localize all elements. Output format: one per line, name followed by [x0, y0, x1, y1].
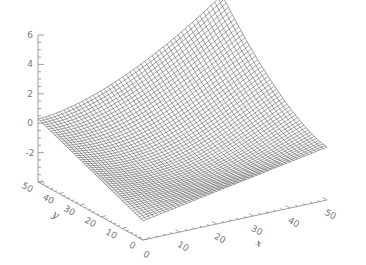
z-tick-label: 4 — [27, 59, 33, 69]
x-axis-tick — [148, 237, 150, 238]
x-axis-tick — [192, 228, 194, 229]
mesh-line — [40, 0, 224, 121]
y-axis-tick — [114, 223, 116, 224]
x-axis-tick — [175, 230, 179, 232]
y-axis-tick — [130, 233, 132, 234]
y-axis-tick — [97, 214, 99, 215]
y-axis-tick — [143, 239, 148, 240]
y-axis-tick — [109, 221, 111, 222]
x-axis-tick — [200, 226, 202, 227]
mesh-line — [75, 105, 180, 206]
mesh-line — [38, 0, 222, 119]
mesh-line — [159, 50, 264, 172]
surface-mesh — [38, 0, 327, 221]
x-axis-tick — [273, 210, 275, 211]
x-axis-tick — [310, 202, 312, 203]
y-axis-tick — [88, 209, 90, 210]
x-axis-tick — [229, 220, 231, 221]
x-axis-tick — [156, 236, 158, 237]
y-tick-label: 30 — [62, 203, 77, 217]
mesh-line — [56, 113, 161, 214]
x-axis-tick — [266, 212, 268, 213]
mesh-line — [218, 0, 323, 149]
x-axis-tick — [207, 224, 209, 225]
x-axis-tick — [303, 204, 305, 205]
mesh-line — [44, 7, 228, 125]
x-tick-label: 50 — [323, 207, 338, 221]
y-tick-label: 10 — [104, 227, 119, 241]
y-axis-tick — [105, 219, 107, 220]
x-axis-tick — [323, 198, 327, 200]
z-tick-label: 0 — [27, 118, 33, 128]
x-axis-tick — [222, 221, 224, 222]
x-tick-label: 30 — [249, 223, 264, 237]
x-axis-tick — [317, 200, 319, 201]
mesh-line — [156, 53, 261, 174]
y-axis-tick — [122, 227, 127, 228]
z-tick-label: 2 — [27, 89, 33, 99]
x-tick-label: 20 — [213, 231, 228, 245]
mesh-line — [42, 118, 147, 219]
mesh-line — [174, 38, 279, 166]
y-axis-tick — [80, 204, 85, 205]
y-tick-label: 40 — [41, 192, 56, 206]
x-axis-tick — [281, 208, 283, 209]
z-tick-label: -2 — [26, 148, 35, 158]
y-axis-title-glyph: y — [50, 208, 61, 221]
x-axis-tick — [259, 213, 261, 214]
mesh-line — [82, 101, 187, 203]
axes — [38, 35, 327, 240]
y-axis-tick — [76, 202, 78, 203]
x-axis-tick — [249, 214, 253, 216]
x-axis-tick — [244, 216, 246, 217]
x-axis-tick — [295, 205, 297, 206]
y-axis-tick — [84, 207, 86, 208]
y-axis-tick — [42, 184, 44, 185]
mesh-line — [222, 0, 327, 147]
y-axis-tick — [51, 188, 53, 189]
y-axis-tick — [93, 212, 95, 213]
y-axis-tick — [72, 200, 74, 201]
x-axis-tick — [185, 229, 187, 230]
mesh-line — [91, 86, 275, 170]
mesh-line — [93, 89, 277, 172]
y-axis-tick — [67, 198, 69, 199]
mesh-line — [141, 146, 325, 219]
x-tick-label: 40 — [286, 215, 301, 229]
x-tick-label: 10 — [176, 239, 191, 253]
y-axis-tick — [101, 216, 106, 217]
x-axis-title-glyph: x — [254, 237, 264, 250]
y-axis-tick — [46, 186, 48, 187]
z-tick-label: 6 — [27, 30, 33, 40]
x-tick-label: 0 — [142, 249, 152, 261]
y-tick-label: 20 — [83, 215, 98, 229]
y-axis-tick — [59, 193, 64, 194]
y-tick-label: 50 — [20, 180, 35, 194]
y-axis-tick — [126, 230, 128, 231]
mesh-line — [211, 5, 316, 151]
surface-plot: 0102030405001020304050-20246xy — [0, 0, 366, 265]
y-axis-tick — [63, 195, 65, 196]
y-tick-label: 0 — [128, 240, 138, 252]
mesh-line — [152, 56, 257, 175]
y-axis-tick — [55, 191, 57, 192]
x-axis-tick — [170, 232, 172, 233]
mesh-line — [178, 35, 283, 165]
x-axis-tick — [163, 234, 165, 235]
y-axis-tick — [118, 226, 120, 227]
x-axis-tick — [286, 206, 290, 208]
y-axis-tick — [139, 237, 141, 238]
y-axis-tick — [135, 235, 137, 236]
x-axis-tick — [236, 218, 238, 219]
x-axis-tick — [212, 222, 216, 224]
